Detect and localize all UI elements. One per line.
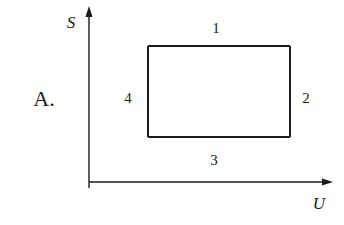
edge-4-label: 4 (124, 91, 132, 106)
option-label: A. (33, 88, 54, 110)
x-axis-arrowhead-icon (322, 179, 333, 186)
edge-3-label: 3 (210, 153, 218, 168)
y-axis-label: S (67, 14, 76, 31)
diagram-canvas (0, 0, 344, 225)
edge-1-label: 1 (212, 21, 220, 36)
edge-2-label: 2 (302, 91, 310, 106)
y-axis-arrowhead-icon (86, 6, 93, 17)
x-axis-label: U (313, 195, 325, 212)
